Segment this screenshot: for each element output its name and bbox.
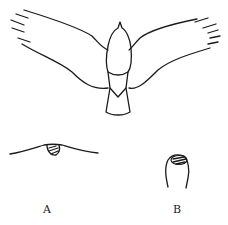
diagram-canvas: A B xyxy=(0,0,228,225)
bird-body xyxy=(106,22,131,115)
right-wing xyxy=(129,18,220,88)
panel-a-label: A xyxy=(43,204,51,215)
panel-b-drawing xyxy=(166,155,189,188)
left-wing xyxy=(11,10,108,88)
panel-b-label: B xyxy=(173,204,181,215)
bird-drawing xyxy=(0,0,228,225)
panel-a-drawing xyxy=(10,144,98,155)
